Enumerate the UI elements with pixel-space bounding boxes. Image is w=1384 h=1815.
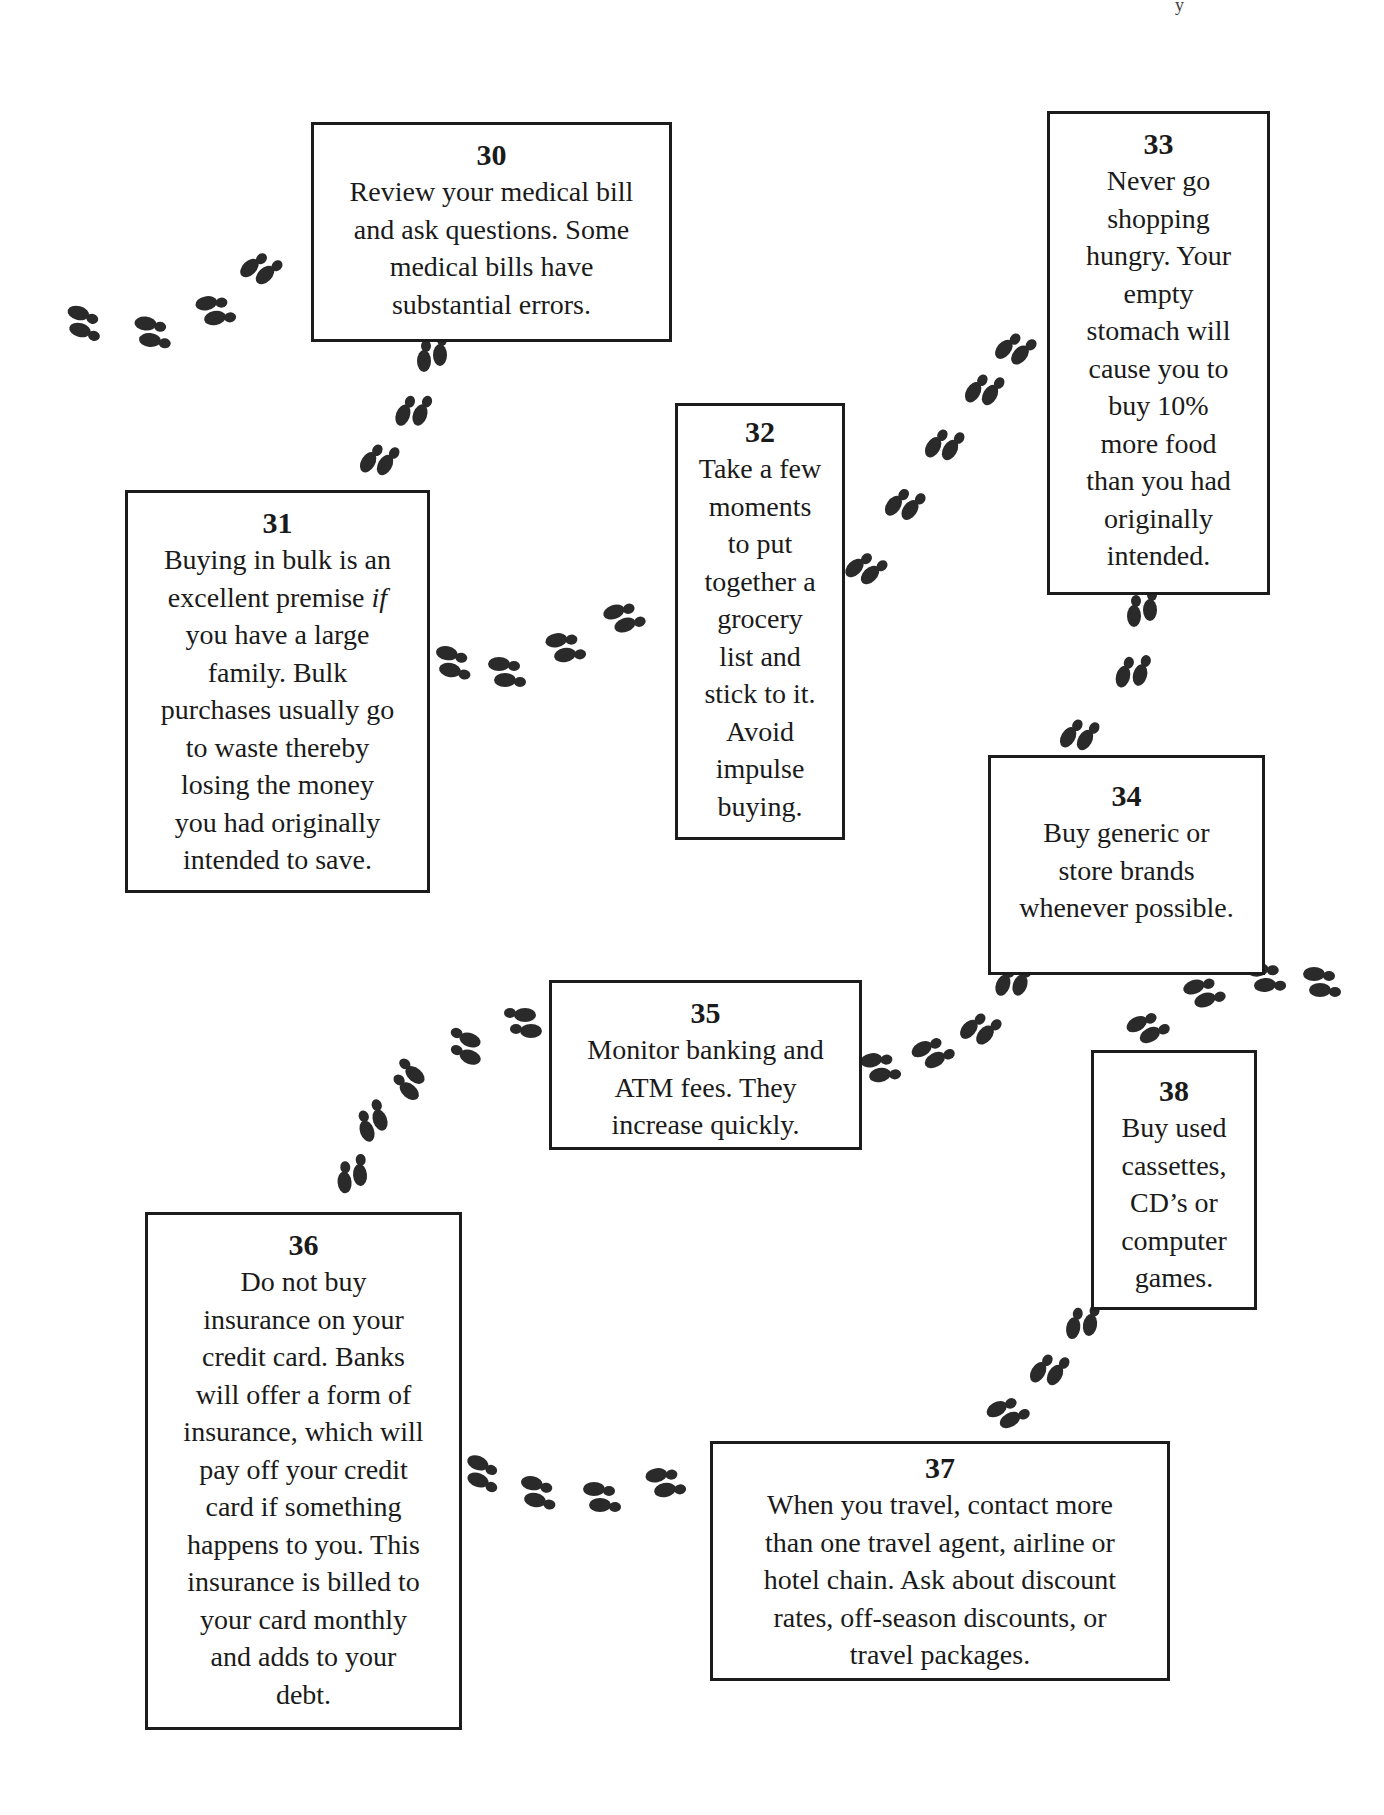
tip-box-38: 38 Buy used cassettes, CD’s or computer …: [1091, 1050, 1257, 1310]
tip-number: 35: [691, 995, 721, 1031]
trail-37-to-38: [984, 1300, 1101, 1434]
trail-34-to-35: [859, 957, 1033, 1084]
tip-number: 37: [925, 1450, 955, 1486]
tip-box-32: 32 Take a few moments to put together a …: [675, 403, 845, 840]
trail-36-to-37: [460, 1453, 687, 1512]
tip-text: Monitor banking and ATM fees. They incre…: [587, 1031, 823, 1144]
tip-text: Buy used cassettes, CD’s or computer gam…: [1121, 1109, 1227, 1297]
tip-box-37: 37 When you travel, contact more than on…: [710, 1441, 1170, 1681]
trail-33-to-34: [1057, 589, 1157, 758]
tip-box-35: 35 Monitor banking and ATM fees. They in…: [549, 980, 862, 1150]
tip-box-36: 36 Do not buy insurance on your credit c…: [145, 1212, 462, 1730]
tip-text-part: you have a large family. Bulk purchases …: [161, 619, 394, 875]
tip-text: Take a few moments to put together a gro…: [699, 450, 821, 825]
trail-left-to-30: [62, 244, 285, 349]
tip-text: When you travel, contact more than one t…: [764, 1486, 1116, 1674]
tip-text-italic: if: [372, 582, 388, 613]
tip-box-34: 34 Buy generic or store brands whenever …: [988, 755, 1265, 975]
tip-text: Review your medical bill and ask questio…: [350, 173, 634, 323]
tip-number: 34: [1112, 778, 1142, 814]
tip-number: 38: [1159, 1073, 1189, 1109]
tip-number: 32: [745, 414, 775, 450]
tip-text: Do not buy insurance on your credit card…: [183, 1263, 423, 1713]
trail-30-to-31: [357, 334, 447, 483]
tip-text: Buy generic or store brands whenever pos…: [1019, 814, 1234, 927]
tip-text-part: Buying in bulk is an excellent premise: [164, 544, 391, 613]
tip-box-31: 31 Buying in bulk is an excellent premis…: [125, 490, 430, 893]
trail-32-to-33: [842, 324, 1039, 592]
tip-number: 30: [477, 137, 507, 173]
tip-text: Buying in bulk is an excellent premise i…: [161, 541, 394, 879]
tip-box-30: 30 Review your medical bill and ask ques…: [311, 122, 672, 342]
trail-35-to-36: [335, 1008, 542, 1194]
tip-box-33: 33 Never go shopping hungry. Your empty …: [1047, 111, 1270, 595]
tip-number: 36: [289, 1227, 319, 1263]
tip-number: 33: [1144, 126, 1174, 162]
tip-number: 31: [263, 505, 293, 541]
tip-text: Never go shopping hungry. Your empty sto…: [1086, 162, 1231, 575]
trail-31-to-32: [432, 596, 647, 687]
